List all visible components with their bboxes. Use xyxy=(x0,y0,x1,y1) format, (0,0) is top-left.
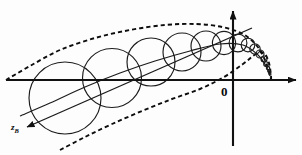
tangent-circle xyxy=(191,31,221,61)
figure-container: 0 zB xyxy=(0,0,302,155)
origin-label: 0 xyxy=(221,85,228,98)
lower-envelope-curve xyxy=(60,52,271,150)
geometry-figure-canvas xyxy=(0,0,302,155)
z-axis-label: zB xyxy=(11,123,19,134)
tangent-circle-family xyxy=(29,31,271,134)
z-axis-subscript: B xyxy=(15,127,19,134)
envelope-group xyxy=(6,24,271,150)
axes-group xyxy=(6,11,296,146)
